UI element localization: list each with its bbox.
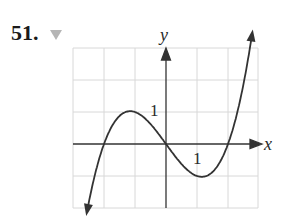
x-axis-arrow-icon <box>250 140 262 149</box>
y-tick-label: 1 <box>150 101 159 120</box>
cubic-graph: y x 1 1 <box>0 0 290 224</box>
curve-arrow-right-icon <box>247 29 256 42</box>
x-tick-label: 1 <box>193 149 202 168</box>
y-axis-arrow-icon <box>162 48 171 60</box>
x-axis-label: x <box>263 134 272 154</box>
y-axis-label: y <box>158 25 168 45</box>
curve-arrow-left-icon <box>84 203 93 216</box>
